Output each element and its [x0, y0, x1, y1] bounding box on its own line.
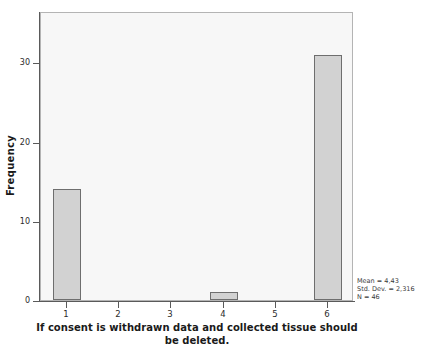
x-tick-5 — [275, 302, 276, 308]
x-axis-title-line-1: If consent is withdrawn data and collect… — [34, 321, 360, 334]
cropped-title-remnant — [0, 0, 428, 8]
y-tick-label-30: 30 — [2, 58, 30, 67]
x-tick-label-4: 4 — [211, 309, 235, 319]
bar-category-4 — [210, 292, 238, 300]
x-tick-4 — [223, 302, 224, 308]
stat-std-dev: Std. Dev. = 2,316 — [357, 285, 415, 293]
histogram-chart: 0102030 123456 Frequency If consent is w… — [0, 0, 428, 356]
bar-category-6 — [314, 55, 342, 300]
x-tick-3 — [170, 302, 171, 308]
statistics-annotation: Mean = 4,43 Std. Dev. = 2,316 N = 46 — [357, 277, 415, 302]
x-tick-label-6: 6 — [315, 309, 339, 319]
y-tick-label-0: 0 — [2, 296, 30, 305]
y-tick-30 — [33, 63, 40, 64]
x-tick-label-3: 3 — [158, 309, 182, 319]
y-axis-title-text: Frequency — [6, 134, 17, 195]
x-tick-label-1: 1 — [54, 309, 78, 319]
y-axis-title: Frequency — [2, 110, 20, 220]
plot-area — [40, 12, 353, 301]
stat-n: N = 46 — [357, 293, 415, 301]
x-axis-line — [39, 301, 355, 302]
bar-category-1 — [53, 189, 81, 300]
y-tick-10 — [33, 222, 40, 223]
x-tick-label-5: 5 — [263, 309, 287, 319]
x-axis-title: If consent is withdrawn data and collect… — [34, 321, 360, 347]
x-tick-1 — [66, 302, 67, 308]
y-axis-line — [39, 12, 40, 301]
x-tick-6 — [327, 302, 328, 308]
bars-layer — [41, 13, 352, 300]
stat-mean: Mean = 4,43 — [357, 277, 415, 285]
y-tick-20 — [33, 143, 40, 144]
x-tick-2 — [118, 302, 119, 308]
x-axis-title-line-2: be deleted. — [34, 334, 360, 347]
x-tick-label-2: 2 — [106, 309, 130, 319]
